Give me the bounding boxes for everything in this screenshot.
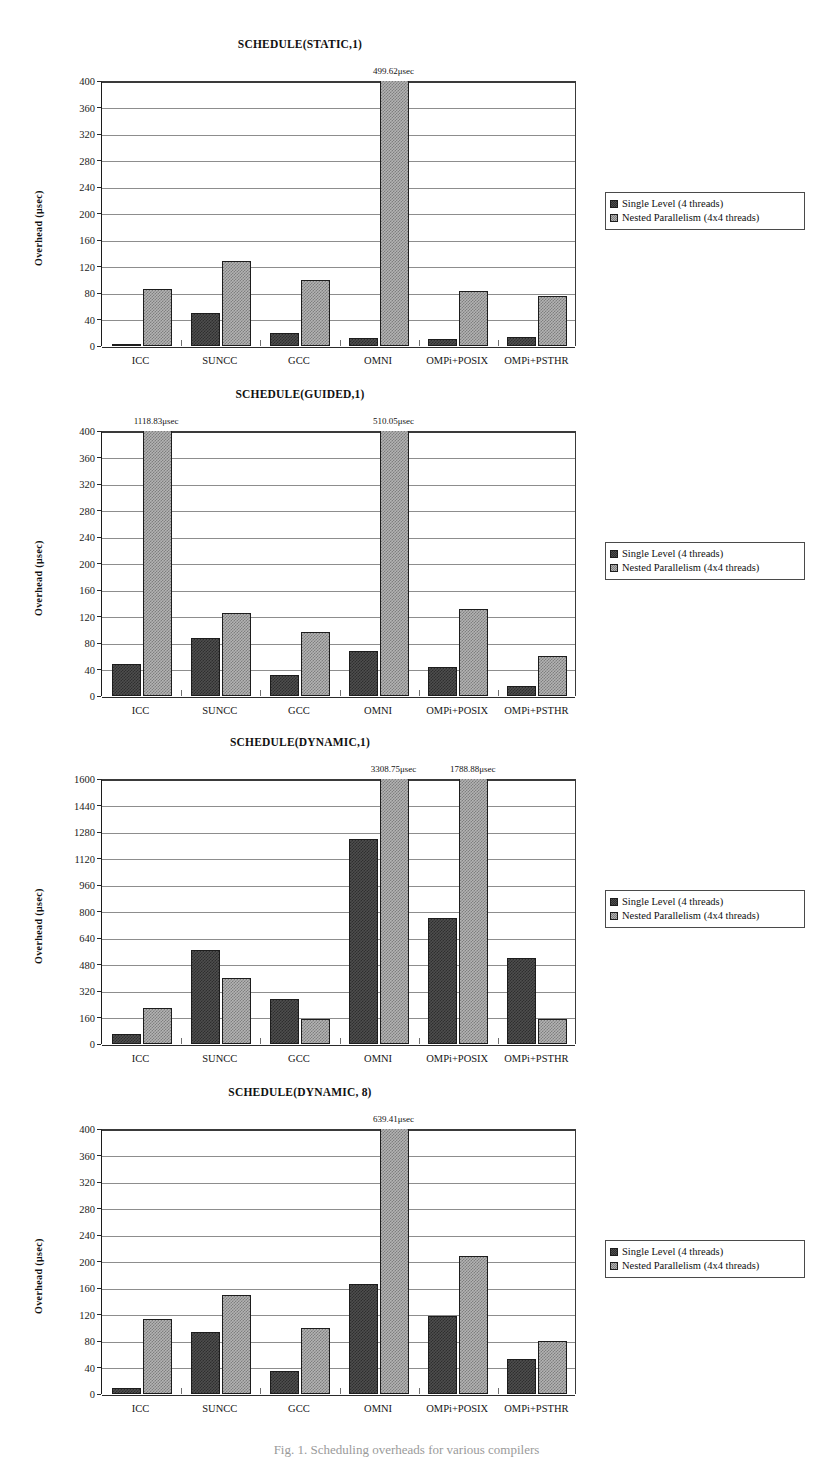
bar bbox=[459, 609, 488, 696]
gridline bbox=[102, 1342, 575, 1343]
legend-entry[interactable]: Nested Parallelism (4x4 threads) bbox=[610, 561, 799, 575]
bar bbox=[507, 1359, 536, 1394]
gridline bbox=[102, 859, 575, 860]
category-separator bbox=[419, 690, 420, 696]
y-tick-label: 1280 bbox=[61, 827, 95, 838]
bar bbox=[112, 344, 141, 346]
category-separator bbox=[260, 340, 261, 346]
bar bbox=[507, 958, 536, 1044]
figure-caption: Fig. 1. Scheduling overheads for various… bbox=[0, 1442, 813, 1458]
gridline bbox=[102, 886, 575, 887]
plot-area bbox=[101, 431, 576, 696]
gridline bbox=[102, 1130, 575, 1131]
y-axis-label: Overhead (μsec) bbox=[33, 888, 44, 964]
category-separator bbox=[419, 1388, 420, 1394]
legend-swatch-nested-parallelism-icon bbox=[610, 564, 618, 572]
bar bbox=[538, 656, 567, 696]
legend-entry[interactable]: Single Level (4 threads) bbox=[610, 1245, 799, 1259]
legend-swatch-single-level-icon bbox=[610, 898, 618, 906]
y-tick-label: 200 bbox=[61, 208, 95, 219]
gridline bbox=[102, 1315, 575, 1316]
y-tick-label: 360 bbox=[61, 1150, 95, 1161]
legend-entry[interactable]: Nested Parallelism (4x4 threads) bbox=[610, 909, 799, 923]
legend-entry[interactable]: Single Level (4 threads) bbox=[610, 895, 799, 909]
y-tick-label: 800 bbox=[61, 906, 95, 917]
gridline bbox=[102, 591, 575, 592]
gridline bbox=[102, 347, 575, 348]
plot-area bbox=[101, 81, 576, 346]
bar bbox=[270, 333, 299, 346]
legend-label: Single Level (4 threads) bbox=[622, 1245, 723, 1259]
y-tick-label: 480 bbox=[61, 959, 95, 970]
category-separator bbox=[498, 340, 499, 346]
bar bbox=[143, 1008, 172, 1044]
legend-entry[interactable]: Single Level (4 threads) bbox=[610, 547, 799, 561]
category-separator bbox=[260, 690, 261, 696]
y-tick-label: 120 bbox=[61, 611, 95, 622]
gridline bbox=[102, 1262, 575, 1263]
y-tick-label: 160 bbox=[61, 235, 95, 246]
bar bbox=[301, 280, 330, 346]
gridline bbox=[102, 1368, 575, 1369]
y-tick-label: 160 bbox=[61, 1012, 95, 1023]
y-tick-label: 160 bbox=[61, 585, 95, 596]
category-separator bbox=[181, 1388, 182, 1394]
bar bbox=[428, 918, 457, 1044]
bar bbox=[507, 337, 536, 346]
bar bbox=[270, 999, 299, 1044]
chart-legend: Single Level (4 threads)Nested Paralleli… bbox=[605, 1240, 805, 1278]
y-tick-label: 400 bbox=[61, 76, 95, 87]
chart-title: SCHEDULE(GUIDED,1) bbox=[0, 388, 600, 400]
legend-label: Nested Parallelism (4x4 threads) bbox=[622, 1259, 759, 1273]
gridline bbox=[102, 965, 575, 966]
category-separator bbox=[340, 1388, 341, 1394]
gridline bbox=[102, 511, 575, 512]
gridline bbox=[102, 833, 575, 834]
category-separator bbox=[340, 1038, 341, 1044]
legend-entry[interactable]: Nested Parallelism (4x4 threads) bbox=[610, 211, 799, 225]
y-tick-label: 280 bbox=[61, 155, 95, 166]
y-tick-label: 40 bbox=[61, 664, 95, 675]
bar bbox=[301, 1328, 330, 1394]
gridline bbox=[102, 214, 575, 215]
gridline bbox=[102, 1395, 575, 1396]
legend-label: Single Level (4 threads) bbox=[622, 895, 723, 909]
gridline bbox=[102, 939, 575, 940]
y-tick-label: 640 bbox=[61, 933, 95, 944]
bar bbox=[459, 291, 488, 346]
legend-entry[interactable]: Single Level (4 threads) bbox=[610, 197, 799, 211]
y-tick-label: 80 bbox=[61, 638, 95, 649]
bar bbox=[380, 1129, 409, 1394]
bar bbox=[459, 1256, 488, 1394]
y-tick-label: 360 bbox=[61, 452, 95, 463]
gridline bbox=[102, 912, 575, 913]
y-tick-label: 1600 bbox=[61, 774, 95, 785]
bar bbox=[507, 686, 536, 696]
bar bbox=[428, 1316, 457, 1394]
legend-entry[interactable]: Nested Parallelism (4x4 threads) bbox=[610, 1259, 799, 1273]
legend-swatch-nested-parallelism-icon bbox=[610, 214, 618, 222]
category-separator bbox=[340, 340, 341, 346]
chart-title: SCHEDULE(STATIC,1) bbox=[0, 38, 600, 50]
chart-block: SCHEDULE(DYNAMIC,1)Overhead (μsec)016032… bbox=[0, 728, 813, 1068]
bar bbox=[222, 1295, 251, 1394]
bar bbox=[191, 1332, 220, 1394]
gridline bbox=[102, 161, 575, 162]
gridline bbox=[102, 241, 575, 242]
category-separator bbox=[181, 690, 182, 696]
y-tick-label: 0 bbox=[61, 691, 95, 702]
bar bbox=[191, 638, 220, 696]
gridline bbox=[102, 780, 575, 781]
chart-block: SCHEDULE(GUIDED,1)Overhead (μsec)0408012… bbox=[0, 380, 813, 720]
bar-value-annotation: 639.41μsec bbox=[344, 1114, 444, 1124]
y-tick-label: 200 bbox=[61, 1256, 95, 1267]
bar bbox=[222, 613, 251, 696]
legend-swatch-nested-parallelism-icon bbox=[610, 1262, 618, 1270]
bar-value-annotation: 510.05μsec bbox=[344, 416, 444, 426]
bar bbox=[143, 1319, 172, 1394]
bar-value-annotation: 1788.88μsec bbox=[423, 764, 523, 774]
legend-label: Single Level (4 threads) bbox=[622, 197, 723, 211]
y-tick-label: 120 bbox=[61, 1309, 95, 1320]
gridline bbox=[102, 1289, 575, 1290]
bar bbox=[222, 978, 251, 1044]
